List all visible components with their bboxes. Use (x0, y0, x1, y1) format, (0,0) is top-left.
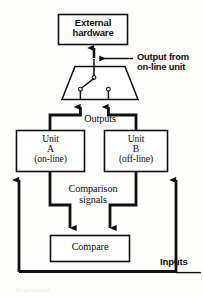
switch-contact-b-terminal-icon (107, 87, 111, 91)
unit-b-label-line3: (off-line) (119, 153, 153, 164)
unit-a-label: Unit A (on-line) (16, 134, 85, 164)
output-callout-line2: on-line unit (137, 61, 185, 72)
block-diagram-figure: External hardware Output from on-line un… (0, 0, 203, 296)
switch-unit-trapezoid (62, 67, 138, 100)
output-callout-label: Output from on-line unit (137, 52, 203, 73)
inputs-label: Inputs (160, 257, 203, 267)
unit-a-label-line3: (on-line) (34, 153, 67, 164)
compare-label-text: Compare (72, 241, 109, 252)
comparison-signals-label: Comparison signals (52, 184, 134, 205)
unit-b-label: Unit B (off-line) (104, 134, 168, 164)
compare-label: Compare (50, 242, 130, 253)
external-hardware-label: External hardware (58, 18, 128, 38)
output-callout-line1: Output from (137, 51, 189, 62)
page-scan-artifact: Reproduced (16, 286, 50, 294)
outputs-label-text: Outputs (84, 113, 116, 124)
external-hardware-label-line2: hardware (72, 27, 113, 38)
comparison-signals-line1: Comparison (69, 183, 118, 194)
inputs-label-text: Inputs (160, 256, 188, 267)
comparison-signals-line2: signals (79, 194, 107, 205)
outputs-label: Outputs (62, 114, 138, 125)
switch-contact-a-terminal-icon (79, 87, 83, 91)
